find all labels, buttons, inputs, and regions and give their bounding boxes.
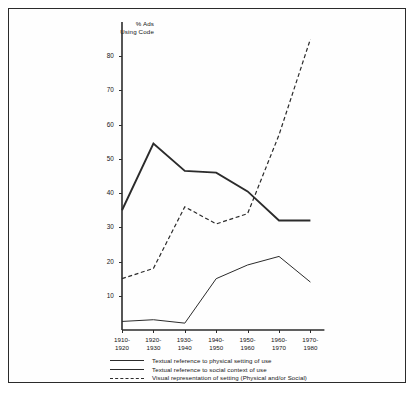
y-tick-label: 80 (88, 52, 114, 59)
legend-swatch-thin-solid-icon (110, 369, 144, 370)
y-tick-label: 60 (88, 121, 114, 128)
y-tick-label: 40 (88, 189, 114, 196)
y-tick-mark (119, 262, 122, 263)
y-tick-mark (119, 227, 122, 228)
x-tick-mark (279, 330, 280, 333)
y-tick-mark (119, 193, 122, 194)
series-line-1 (122, 256, 310, 323)
y-tick-label: 30 (88, 223, 114, 230)
y-tick-mark (119, 159, 122, 160)
series-line-2 (122, 39, 310, 279)
y-tick-label: 20 (88, 258, 114, 265)
x-tick-label: 1970- 1980 (290, 336, 330, 352)
y-tick-label: 70 (88, 86, 114, 93)
y-tick-label: 50 (88, 155, 114, 162)
x-tick-mark (122, 330, 123, 333)
legend-swatch-dashed-icon (110, 378, 144, 379)
x-tick-mark (216, 330, 217, 333)
legend-swatch-thick-solid-icon (110, 360, 144, 361)
x-tick-mark (185, 330, 186, 333)
x-tick-mark (153, 330, 154, 333)
legend-label-social-context: Textual reference to social context of u… (152, 366, 267, 375)
legend-label-physical-setting: Textual reference to physical setting of… (152, 357, 272, 366)
x-tick-mark (248, 330, 249, 333)
series-line-0 (122, 143, 310, 220)
legend-label-visual-representation: Visual representation of setting (Physic… (152, 374, 307, 383)
y-tick-mark (119, 90, 122, 91)
y-tick-mark (119, 296, 122, 297)
y-tick-label: 10 (88, 292, 114, 299)
x-tick-mark (310, 330, 311, 333)
y-tick-mark (119, 56, 122, 57)
y-tick-mark (119, 125, 122, 126)
